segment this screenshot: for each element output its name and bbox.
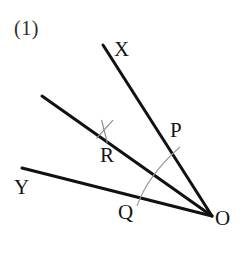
item-number-label: (1) [14,18,39,38]
point-label-x: X [114,39,129,60]
ray-or-line [42,96,212,216]
ray-ox-line [103,45,212,216]
point-label-q: Q [118,202,133,223]
ray-oy-line [22,168,212,216]
point-label-p: P [170,120,182,141]
point-label-y: Y [14,177,29,198]
point-label-r: R [100,145,114,166]
point-label-o: O [215,208,230,229]
geometry-figure-panel: (1) X P R Y Q O [0,0,243,265]
